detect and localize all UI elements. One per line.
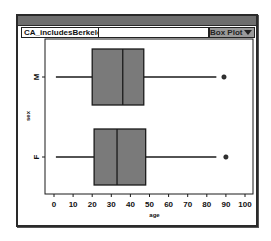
box-plot-chart: 0102030405060708090100agesexMF — [0, 0, 271, 241]
y-category-label-f: F — [32, 154, 41, 159]
x-tick-label: 0 — [52, 200, 57, 209]
plot-area — [45, 39, 253, 194]
x-tick-label: 20 — [88, 200, 97, 209]
x-tick-label: 70 — [183, 200, 192, 209]
outlier-point[interactable] — [224, 155, 228, 159]
x-tick-label: 90 — [221, 200, 230, 209]
box-f[interactable] — [94, 129, 146, 185]
x-tick-label: 100 — [238, 200, 252, 209]
x-tick-label: 40 — [126, 200, 135, 209]
x-tick-label: 60 — [164, 200, 173, 209]
y-category-label-m: M — [32, 73, 41, 80]
box-m[interactable] — [92, 49, 144, 105]
x-tick-label: 30 — [107, 200, 116, 209]
x-tick-label: 10 — [69, 200, 78, 209]
y-axis-label: sex — [25, 110, 31, 121]
x-tick-label: 80 — [202, 200, 211, 209]
x-tick-label: 50 — [145, 200, 154, 209]
outlier-point[interactable] — [222, 75, 226, 79]
x-axis-label: age — [149, 212, 160, 218]
